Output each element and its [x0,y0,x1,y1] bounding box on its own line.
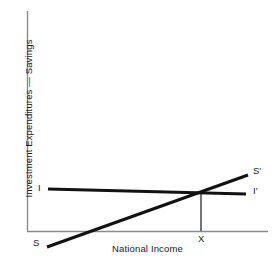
equilibrium-tick-label: X [198,233,204,244]
savings-curve-s-sprime [47,175,248,247]
y-axis-title: Investment Expenditures — Savings [23,34,34,204]
curve-label-s: S [33,237,39,248]
curve-label-i-prime: I′ [253,185,257,196]
curve-label-i: I [38,182,41,193]
plot-area [0,0,274,265]
curve-label-s-prime: S′ [253,165,261,176]
investment-curve-i-iprime [48,189,246,194]
x-axis-title: National Income [27,243,268,254]
economics-chart-figure: Investment Expenditures — Savings Nation… [0,0,274,265]
